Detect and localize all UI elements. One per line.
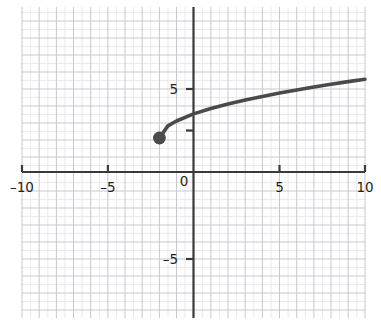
y-tick-labels: 5 –5 [163,81,178,267]
y-tick-label-neg5: –5 [163,251,178,267]
y-tick-label-5: 5 [169,81,178,97]
x-tick-label-neg5: –5 [100,179,115,195]
x-tick-label-zero: 0 [180,173,189,189]
x-tick-label-neg10: –10 [10,179,34,195]
x-tick-label-5: 5 [275,179,284,195]
y-axis [186,7,194,318]
x-tick-label-10: 10 [356,179,373,195]
graph-figure: –10 –5 0 5 10 5 –5 [0,0,381,332]
curve-endpoint-closed-dot [153,132,166,145]
